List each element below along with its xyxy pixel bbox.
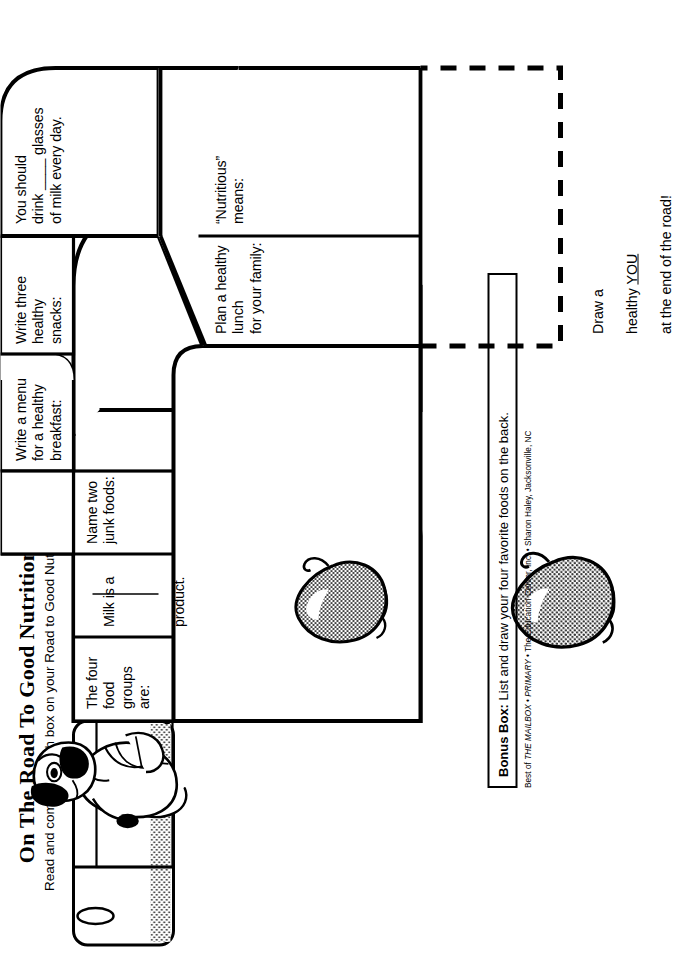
credit-author: Sharon Haley, Jacksonville, NC xyxy=(523,430,532,546)
credit-prefix: Best of xyxy=(523,760,532,788)
cell-junk-foods: Name two junk foods: xyxy=(83,474,118,544)
credit-line: Best of THE MAILBOX • PRIMARY • The Educ… xyxy=(523,430,532,788)
credit-level: PRIMARY xyxy=(523,659,532,696)
milk-text-before: Milk is a xyxy=(100,577,116,627)
draw-line-2-pre: healthy xyxy=(623,285,639,334)
cell-milk-glasses: You should drink ____ glasses of milk ev… xyxy=(12,76,64,224)
credit-sep-1: • xyxy=(523,697,532,705)
draw-healthy-you-caption: Draw a healthy YOU at the end of the roa… xyxy=(572,34,676,334)
apple-icon-1 xyxy=(296,558,387,642)
draw-line-1: Draw a xyxy=(589,34,606,334)
bonus-box-label: Bonus Box: xyxy=(495,704,510,777)
draw-line-3: at the end of the road! xyxy=(657,34,674,334)
cell-breakfast-menu: Write a menu for a healthy breakfast: xyxy=(12,361,64,461)
cell-healthy-snacks: Write three healthy snacks: xyxy=(12,240,64,344)
bonus-box: Bonus Box: List and draw your four favor… xyxy=(487,273,517,788)
dog-walking-icon xyxy=(30,733,185,828)
draw-line-2: healthy YOU xyxy=(623,34,640,334)
milk-text-after: product. xyxy=(170,577,186,627)
cell-healthy-lunch: Plan a healthy lunch for your family: xyxy=(212,238,264,334)
draw-line-2-you: YOU xyxy=(623,254,639,285)
credit-sep-2: • xyxy=(523,652,532,659)
bonus-box-text: Bonus Box: List and draw your four favor… xyxy=(495,412,510,777)
cell-four-food-groups: The four food groups are: xyxy=(83,641,152,709)
credit-publisher: The Education Center, Inc. xyxy=(523,554,532,652)
cell-nutritious-means: “Nutritious” means: xyxy=(212,114,247,224)
bonus-box-body: List and draw your four favorite foods o… xyxy=(495,412,510,704)
credit-publication: THE MAILBOX xyxy=(523,704,532,760)
credit-sep-3: • xyxy=(523,546,532,554)
cell-milk-product: Milk is a product. xyxy=(83,559,187,627)
